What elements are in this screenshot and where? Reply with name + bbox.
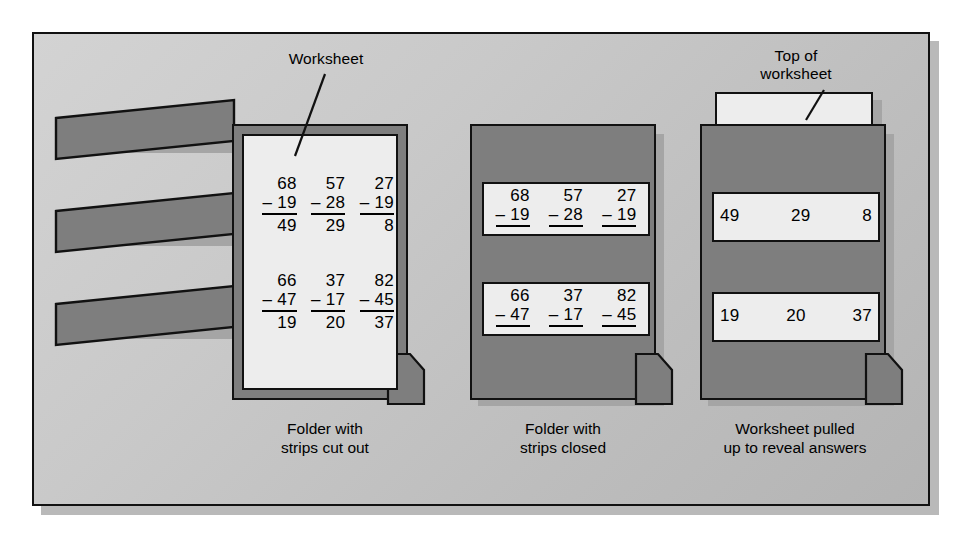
subtrahend: 17 xyxy=(326,290,346,309)
middle-folder-corner-fold xyxy=(634,352,674,410)
subtrahend-line: – 47 xyxy=(496,305,530,327)
middle-caption: Folder with strips closed xyxy=(478,419,648,457)
middle-strip-row-2: 66 – 47 37 – 17 82 – xyxy=(486,286,646,327)
answer: 8 xyxy=(862,206,872,225)
minuend: 66 xyxy=(277,271,297,290)
subtrahend: 17 xyxy=(564,305,584,324)
minuend: 66 xyxy=(510,286,530,305)
subtrahend: 47 xyxy=(510,305,530,324)
minuend: 37 xyxy=(564,286,584,305)
operator: – xyxy=(496,305,506,324)
operator: – xyxy=(311,290,321,309)
operator: – xyxy=(360,290,370,309)
answer: 49 xyxy=(720,206,740,225)
subtrahend-line: – 47 xyxy=(262,290,296,312)
subtrahend-line: – 45 xyxy=(360,290,394,312)
right-answer-row-1: 49 29 8 xyxy=(720,206,872,225)
subtrahend: 45 xyxy=(617,305,637,324)
subtrahend-line: – 28 xyxy=(549,205,583,227)
strip-problem: 66 – 47 xyxy=(496,286,530,327)
subtrahend-line: – 17 xyxy=(549,305,583,327)
answer: 20 xyxy=(326,312,346,332)
right-answer-row-2: 19 20 37 xyxy=(720,306,872,325)
minuend: 37 xyxy=(326,271,346,290)
subtrahend: 19 xyxy=(617,205,637,224)
operator: – xyxy=(549,305,559,324)
subtrahend-line: – 17 xyxy=(311,290,345,312)
operator: – xyxy=(549,205,559,224)
right-caption: Worksheet pulled up to reveal answers xyxy=(690,419,900,457)
right-folder-corner-fold xyxy=(864,352,904,410)
problem: 37 – 17 20 xyxy=(311,271,345,332)
subtrahend: 19 xyxy=(510,205,530,224)
subtrahend: 45 xyxy=(374,290,394,309)
top-of-worksheet-leader-line xyxy=(34,34,934,194)
answer: 20 xyxy=(786,306,806,325)
subtrahend-line: – 45 xyxy=(602,305,636,327)
problem: 66 – 47 19 xyxy=(262,271,296,332)
operator: – xyxy=(496,205,506,224)
subtrahend: 47 xyxy=(277,290,297,309)
left-caption: Folder with strips cut out xyxy=(240,419,410,457)
subtrahend-line: – 19 xyxy=(602,205,636,227)
figure-root: 68 – 19 49 57 – 28 29 27 xyxy=(0,0,961,546)
minuend: 82 xyxy=(374,271,394,290)
problem: 82 – 45 37 xyxy=(360,271,394,332)
strip-problem: 82 – 45 xyxy=(602,286,636,327)
answer: 37 xyxy=(852,306,872,325)
subtrahend: 28 xyxy=(564,205,584,224)
operator: – xyxy=(602,305,612,324)
strip-problem: 37 – 17 xyxy=(549,286,583,327)
operator: – xyxy=(262,290,272,309)
operator: – xyxy=(602,205,612,224)
minuend: 82 xyxy=(617,286,637,305)
answer: 29 xyxy=(791,206,811,225)
subtrahend-line: – 19 xyxy=(496,205,530,227)
figure-panel: 68 – 19 49 57 – 28 29 27 xyxy=(32,32,930,506)
answer: 37 xyxy=(374,312,394,332)
answer: 19 xyxy=(277,312,297,332)
answer: 19 xyxy=(720,306,740,325)
